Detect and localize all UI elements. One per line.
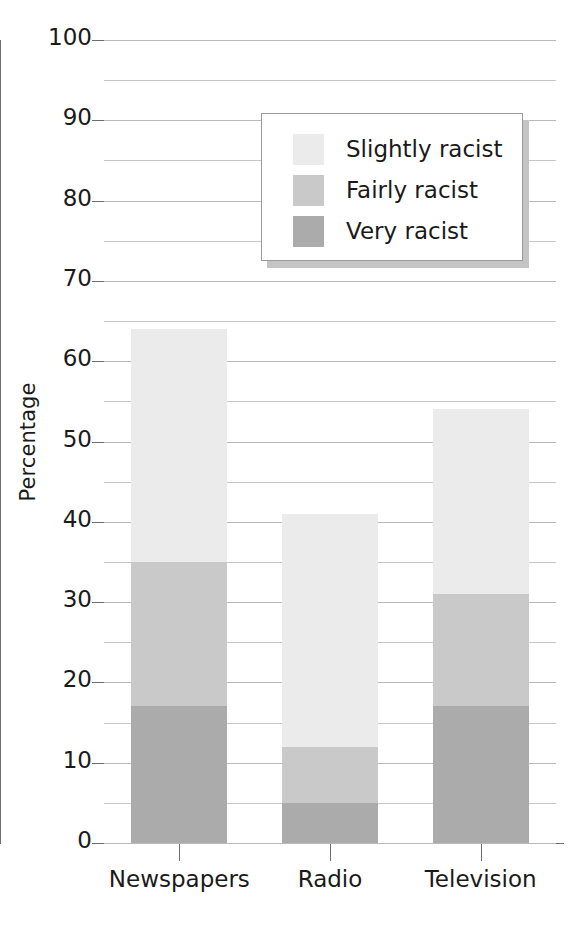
y-axis-tick-mark bbox=[92, 843, 104, 844]
legend-swatch-icon bbox=[293, 216, 324, 247]
bar-segment[interactable] bbox=[131, 562, 227, 707]
stacked-bar-chart: Percentage 0102030405060708090100 Newspa… bbox=[0, 0, 573, 928]
y-axis-tick-mark bbox=[92, 682, 104, 683]
bar-segment[interactable] bbox=[131, 706, 227, 843]
bar-segment[interactable] bbox=[131, 329, 227, 562]
y-axis-tick-mark bbox=[92, 120, 104, 121]
y-axis-tick-label: 70 bbox=[18, 265, 92, 291]
y-axis-tick-mark bbox=[92, 602, 104, 603]
x-axis-tick-label: Newspapers bbox=[109, 866, 250, 892]
bar-newspapers[interactable] bbox=[131, 40, 227, 843]
y-axis-tick-mark bbox=[92, 281, 104, 282]
legend: Slightly racistFairly racistVery racist bbox=[261, 113, 523, 261]
y-axis-tick-mark bbox=[92, 763, 104, 764]
y-axis-tick-mark bbox=[92, 442, 104, 443]
y-axis-tick-mark bbox=[92, 361, 104, 362]
x-axis-tick-mark bbox=[179, 844, 180, 861]
y-axis-tick-label: 80 bbox=[18, 185, 92, 211]
legend-item[interactable]: Fairly racist bbox=[262, 168, 478, 212]
y-axis-tick-label: 100 bbox=[18, 24, 92, 50]
legend-label: Slightly racist bbox=[346, 136, 502, 162]
y-axis-tick-mark bbox=[92, 522, 104, 523]
legend-item[interactable]: Slightly racist bbox=[262, 127, 502, 171]
y-axis-tick-mark bbox=[92, 201, 104, 202]
legend-label: Fairly racist bbox=[346, 177, 478, 203]
legend-label: Very racist bbox=[346, 218, 468, 244]
bar-segment[interactable] bbox=[433, 409, 529, 594]
y-axis-line bbox=[0, 40, 1, 844]
x-axis-tick-label: Radio bbox=[298, 866, 363, 892]
y-axis-tick-label: 40 bbox=[18, 506, 92, 532]
y-axis-tick-label: 20 bbox=[18, 666, 92, 692]
x-axis-tick-label: Television bbox=[425, 866, 537, 892]
y-axis-tick-mark bbox=[92, 40, 104, 41]
y-axis-tick-label: 0 bbox=[18, 827, 92, 853]
legend-swatch-icon bbox=[293, 134, 324, 165]
y-axis-tick-label: 30 bbox=[18, 586, 92, 612]
y-axis-tick-label: 50 bbox=[18, 426, 92, 452]
x-axis-tick-mark bbox=[330, 844, 331, 861]
bar-segment[interactable] bbox=[433, 594, 529, 706]
bar-segment[interactable] bbox=[282, 803, 378, 843]
bar-segment[interactable] bbox=[282, 747, 378, 803]
bar-segment[interactable] bbox=[282, 514, 378, 747]
legend-swatch-icon bbox=[293, 175, 324, 206]
y-axis-tick-label: 10 bbox=[18, 747, 92, 773]
y-axis-tick-label: 90 bbox=[18, 104, 92, 130]
legend-item[interactable]: Very racist bbox=[262, 209, 468, 253]
y-axis-tick-label: 60 bbox=[18, 345, 92, 371]
bar-segment[interactable] bbox=[433, 706, 529, 843]
x-axis-tick-mark bbox=[481, 844, 482, 861]
